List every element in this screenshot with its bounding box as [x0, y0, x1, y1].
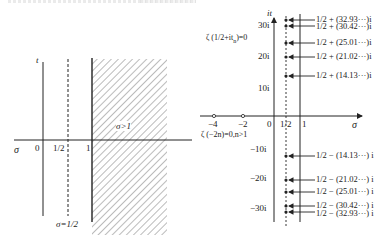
- t-axis-label: t: [36, 55, 39, 65]
- convergence-region: [92, 59, 167, 235]
- tick-30i: 30i: [258, 20, 270, 30]
- zero-label-upper: 1/2 + (30.42···)i: [316, 21, 372, 31]
- tick-zero: 0: [35, 143, 40, 153]
- trivial-zero-minus4: [212, 114, 215, 117]
- zero-label-lower: 1/2 − (21.02···) i: [316, 174, 374, 184]
- zero-label-upper: 1/2 + (14.13···)i: [316, 70, 372, 80]
- tick-minus10i: −10i: [250, 144, 267, 154]
- nontrivial-zero-equation: ζ (1/2+itn)=0: [206, 33, 247, 44]
- tick-minus2: −2: [238, 119, 248, 129]
- trivial-zero-equation: ζ (−2n)=0,n>1: [201, 130, 247, 139]
- tick-minus4: −4: [208, 119, 218, 129]
- critical-line-label: σ=1/2: [56, 219, 78, 229]
- tick-half: 1/2: [280, 119, 292, 129]
- zero-label-lower: 1/2 − (32.93···) i: [316, 208, 374, 218]
- zero-label-upper: 1/2 + (25.01···)i: [316, 37, 372, 47]
- tick-one: 1: [302, 119, 307, 129]
- tick-zero: 0: [267, 119, 272, 129]
- zero-label-upper: 1/2 + (21.02···)i: [316, 51, 372, 61]
- region-label: σ>1: [116, 121, 131, 131]
- tick-20i: 20i: [258, 51, 270, 61]
- real-axis-label: σ: [352, 119, 357, 130]
- tick-minus20i: −20i: [250, 173, 267, 183]
- sigma-axis-label: σ: [14, 144, 19, 155]
- zero-label-lower: 1/2 − (25.01···) i: [316, 186, 374, 196]
- tick-half: 1/2: [53, 143, 65, 153]
- tick-minus30i: −30i: [250, 203, 267, 213]
- zero-label-lower: 1/2 − (14.13···) i: [316, 150, 374, 160]
- tick-10i: 10i: [258, 83, 270, 93]
- imag-axis-label: it: [267, 8, 272, 18]
- left-diagram: [14, 58, 192, 235]
- tick-one: 1: [86, 143, 91, 153]
- trivial-zero-minus2: [241, 114, 244, 117]
